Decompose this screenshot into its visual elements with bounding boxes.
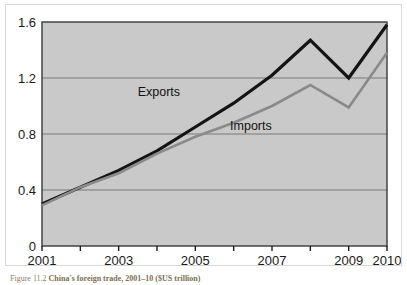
y-axis-tick-label: 1.6 bbox=[18, 15, 36, 30]
x-axis-tick-label: 2001 bbox=[28, 253, 57, 265]
y-axis-tick-label: 0.4 bbox=[18, 183, 36, 198]
figure-caption-number: Figure 11.2 bbox=[10, 274, 47, 283]
figure-caption: Figure 11.2 China's foreign trade, 2001–… bbox=[10, 272, 400, 285]
x-axis-tick-labels: 200120032005200720092010 bbox=[28, 253, 401, 265]
x-axis-tick-label: 2007 bbox=[258, 253, 287, 265]
series-label-exports: Exports bbox=[138, 85, 180, 99]
y-axis-tick-label: 1.2 bbox=[18, 71, 36, 86]
y-axis-tick-labels: 00.40.81.21.6 bbox=[18, 15, 36, 254]
y-axis-tick-label: 0.8 bbox=[18, 127, 36, 142]
y-axis-tick-label: 0 bbox=[29, 239, 36, 254]
x-axis-ticks bbox=[42, 246, 387, 251]
x-axis-tick-label: 2009 bbox=[334, 253, 363, 265]
line-chart: 00.40.81.21.6 200120032005200720092010 E… bbox=[6, 5, 401, 265]
x-axis-tick-label: 2003 bbox=[104, 253, 133, 265]
series-label-imports: Imports bbox=[230, 119, 272, 133]
figure-caption-title: China's foreign trade, 2001–10 ($US tril… bbox=[49, 274, 201, 283]
figure-card: 00.40.81.21.6 200120032005200720092010 E… bbox=[5, 4, 402, 266]
x-axis-tick-label: 2010 bbox=[373, 253, 401, 265]
x-axis-tick-label: 2005 bbox=[181, 253, 210, 265]
